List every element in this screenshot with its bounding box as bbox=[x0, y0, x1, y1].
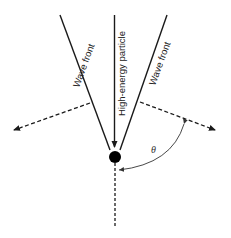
left-emission-arrow bbox=[14, 103, 90, 130]
theta-label: θ bbox=[151, 144, 156, 155]
particle-label: High-energy particle bbox=[116, 31, 127, 116]
particle-dot bbox=[109, 151, 121, 163]
left-wave-front-label: Wave front bbox=[71, 42, 97, 89]
cherenkov-diagram: Wave front High-energy particle Wave fro… bbox=[0, 0, 231, 238]
right-emission-arrow bbox=[140, 102, 215, 130]
left-wave-front-line bbox=[60, 15, 110, 150]
right-wave-front-line bbox=[120, 15, 167, 150]
